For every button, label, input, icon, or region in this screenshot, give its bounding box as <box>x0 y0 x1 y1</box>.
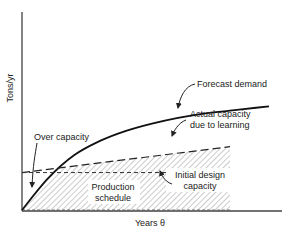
forecast-demand-label: Forecast demand <box>197 79 267 89</box>
y-axis-label: Tons/yr <box>5 73 15 102</box>
actual-capacity-label-line2: due to learning <box>190 120 250 130</box>
over-capacity-arrow <box>32 143 37 187</box>
capacity-planning-diagram: Tons/yr Years θ Forecast demand Actual c… <box>0 0 293 236</box>
actual-capacity-label-line1: Actual capacity <box>190 109 251 119</box>
over-capacity-label: Over capacity <box>34 132 90 142</box>
initial-design-label-line1: Initial design <box>175 170 225 180</box>
actual-capacity-arrow <box>172 120 186 136</box>
forecast-demand-arrow <box>178 84 195 108</box>
x-axis-label: Years θ <box>135 218 165 228</box>
initial-design-label-line2: capacity <box>183 181 217 191</box>
production-schedule-label-line2: schedule <box>95 193 131 203</box>
production-schedule-label-line1: Production <box>91 182 134 192</box>
